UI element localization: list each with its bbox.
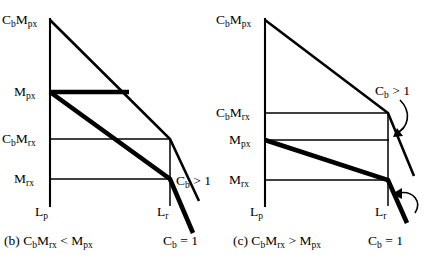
panel-c-ylabel-mrx: Mrx xyxy=(229,172,249,189)
panel-c-ylabel-cbmpx: CbMpx xyxy=(216,12,252,29)
panel-b-ylabel-cbmrx: CbMrx xyxy=(2,131,36,148)
panel-c-caption: (c) CbMrx > Mpx xyxy=(233,233,321,250)
panel-c-curvelabel-cb-greater: Cb > 1 xyxy=(375,83,410,100)
panel-b-ylabel-mrx: Mrx xyxy=(14,171,34,188)
panel-b-xlabel-lp: Lp xyxy=(35,204,48,221)
panel-c: CbMpx CbMrx Mpx Mrx Lp Lr Cb > 1 Cb = 1 … xyxy=(216,12,418,250)
panel-b-ylabel-cbmpx: CbMpx xyxy=(2,12,38,29)
panel-c-xlabel-lr: Lr xyxy=(375,204,387,221)
figure-container: CbMpx Mpx CbMrx Mrx Lp Lr Cb > 1 Cb = 1 … xyxy=(0,0,429,255)
panel-c-ylabel-mpx: Mpx xyxy=(229,132,251,149)
panel-c-curvelabel-cb-equal: Cb = 1 xyxy=(368,233,403,250)
panel-c-ylabel-cbmrx: CbMrx xyxy=(216,105,250,122)
panel-b-curvelabel-cb-equal: Cb = 1 xyxy=(163,233,198,250)
panel-b: CbMpx Mpx CbMrx Mrx Lp Lr Cb > 1 Cb = 1 … xyxy=(2,12,211,250)
panel-b-curve-cb-equal-1 xyxy=(50,92,193,233)
panel-b-xlabel-lr: Lr xyxy=(157,204,169,221)
panel-b-curvelabel-cb-greater: Cb > 1 xyxy=(176,173,211,190)
panel-b-ylabel-mpx: Mpx xyxy=(14,84,36,101)
diagram-svg: CbMpx Mpx CbMrx Mrx Lp Lr Cb > 1 Cb = 1 … xyxy=(0,0,429,255)
panel-b-caption: (b) CbMrx < Mpx xyxy=(4,233,93,250)
panel-c-curve-cb-greater-1 xyxy=(265,20,414,176)
panel-c-xlabel-lp: Lp xyxy=(250,204,263,221)
